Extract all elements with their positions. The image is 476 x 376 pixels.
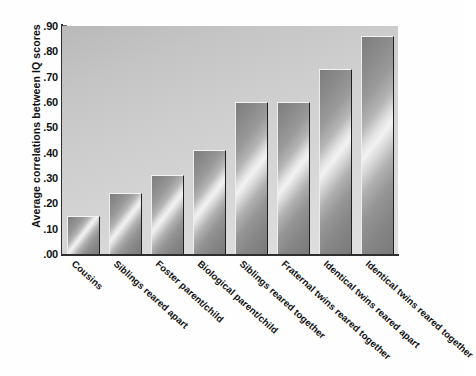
- y-axis-tick-label: .10: [30, 223, 58, 235]
- y-axis-tick-label: .50: [30, 121, 58, 133]
- bar: [67, 216, 100, 254]
- y-axis-tick-label: .40: [30, 147, 58, 159]
- bar: [277, 102, 310, 254]
- x-axis-category-label: Siblings reared together: [238, 258, 328, 341]
- x-axis-category-label: Siblings reared apart: [112, 258, 191, 331]
- bar: [319, 69, 352, 254]
- x-axis-category-label: Cousins: [70, 258, 106, 292]
- y-axis-tick-label: .60: [30, 96, 58, 108]
- bars-group: [62, 26, 398, 254]
- bar: [151, 175, 184, 254]
- x-axis-line: [61, 254, 399, 256]
- y-axis-tick-label: .20: [30, 197, 58, 209]
- y-axis-tick-label: .30: [30, 172, 58, 184]
- x-axis-category-label: Biological parent/child: [196, 258, 281, 336]
- y-axis-tick-label: .70: [30, 71, 58, 83]
- y-axis-tick-label: .80: [30, 45, 58, 57]
- bar: [361, 36, 394, 254]
- bar: [193, 150, 226, 254]
- y-axis-tick-label: .00: [30, 248, 58, 260]
- y-axis-tick-label: .90: [30, 20, 58, 32]
- bar: [235, 102, 268, 254]
- y-axis-tick-labels: .00.10.20.30.40.50.60.70.80.90: [30, 26, 58, 254]
- bar: [109, 193, 142, 254]
- x-axis-category-labels: CousinsSiblings reared apartFoster paren…: [62, 258, 462, 376]
